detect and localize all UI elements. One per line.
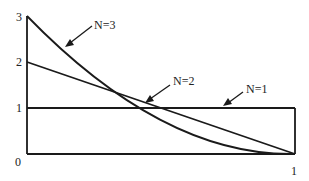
arrow-n2	[150, 85, 170, 99]
y-tick-0: 0	[15, 155, 21, 169]
annotation-n2: N=2	[145, 74, 194, 103]
arrowhead-n1-icon	[223, 98, 232, 106]
x-tick-1: 1	[291, 164, 297, 178]
y-tick-3: 3	[16, 10, 22, 24]
label-n3: N=3	[94, 18, 115, 32]
y-tick-1: 1	[16, 101, 22, 115]
density-curves-diagram: 3 2 1 0 1 N=3 N=2 N=1	[0, 0, 309, 181]
label-n2: N=2	[173, 74, 194, 88]
arrow-n1	[228, 92, 243, 103]
plot-canvas: 3 2 1 0 1 N=3 N=2 N=1	[0, 0, 309, 181]
label-n1: N=1	[246, 82, 267, 96]
arrowhead-n2-icon	[145, 95, 154, 103]
annotation-n3: N=3	[65, 18, 115, 47]
annotation-n1: N=1	[223, 82, 267, 106]
y-tick-2: 2	[16, 55, 22, 69]
arrow-n3	[70, 26, 92, 43]
